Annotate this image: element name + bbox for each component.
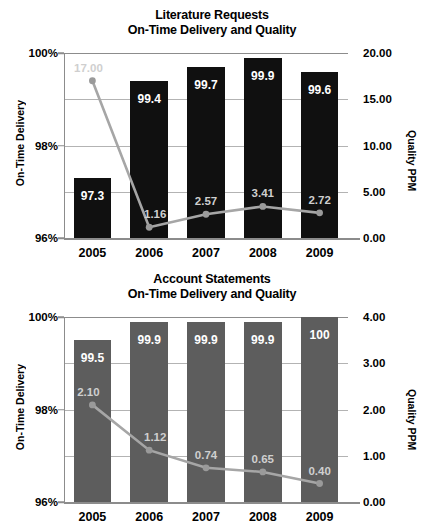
chart1-x-tick-label: 2007: [176, 246, 236, 260]
chart1-x-tick-label: 2006: [119, 246, 179, 260]
chart2-x-tick-label: 2005: [62, 510, 122, 524]
chart1-line-series: [0, 0, 424, 264]
chart2-x-tick-label: 2009: [290, 510, 350, 524]
chart-literature-requests: Literature Requests On-Time Delivery and…: [0, 0, 424, 264]
chart1-line-value-label: 1.16: [133, 208, 177, 220]
chart-account-statements: Account Statements On-Time Delivery and …: [0, 264, 424, 527]
chart1-line-value-label: 17.00: [66, 62, 110, 74]
chart2-line-value-label: 0.74: [184, 449, 228, 461]
chart1-line-value-label: 3.41: [241, 187, 285, 199]
chart1-x-tick-label: 2008: [233, 246, 293, 260]
chart2-x-tick-label: 2007: [176, 510, 236, 524]
chart2-line-value-label: 0.40: [298, 465, 342, 477]
chart2-line-value-label: 1.12: [133, 431, 177, 443]
chart2-line-value-label: 2.10: [66, 386, 110, 398]
chart1-x-tick-label: 2009: [290, 246, 350, 260]
chart2-line-series: [0, 264, 424, 527]
chart1-line-value-label: 2.57: [184, 195, 228, 207]
chart1-x-tick-label: 2005: [62, 246, 122, 260]
chart2-line-value-label: 0.65: [241, 453, 285, 465]
chart2-x-tick-label: 2006: [119, 510, 179, 524]
chart1-line-value-label: 2.72: [298, 194, 342, 206]
chart2-x-tick-label: 2008: [233, 510, 293, 524]
